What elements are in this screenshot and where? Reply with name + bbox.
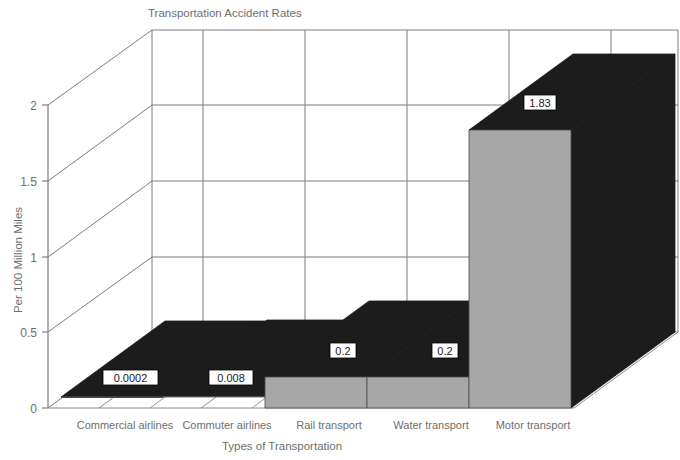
value-label-commercial-airlines: 0.0002 — [103, 370, 158, 385]
bar-motor-transport-front — [469, 130, 571, 408]
value-label-text-4: 1.83 — [529, 97, 550, 109]
y-tick-label-2: 2 — [30, 99, 37, 113]
category-label-water-transport: Water transport — [393, 419, 468, 431]
depth-line-2 — [48, 30, 152, 105]
value-label-water-transport: 0.2 — [432, 343, 458, 358]
depth-line-1 — [48, 181, 152, 257]
y-axis — [42, 105, 48, 408]
chart-title: Transportation Accident Rates — [148, 7, 302, 19]
value-label-rail-transport: 0.2 — [330, 343, 356, 358]
bar-water-transport-front — [367, 377, 469, 408]
bar-motor-transport[interactable] — [469, 54, 675, 408]
value-label-text-0: 0.0002 — [114, 372, 148, 384]
y-axis-title: Per 100 Million Miles — [12, 207, 24, 313]
value-label-text-1: 0.008 — [217, 372, 245, 384]
chart-container: 2 1.5 1 0.5 0 Per 100 Million Miles Tran… — [0, 0, 680, 460]
transportation-accident-rates-chart: 2 1.5 1 0.5 0 Per 100 Million Miles Tran… — [0, 0, 680, 460]
category-label-motor-transport: Motor transport — [496, 419, 571, 431]
bar-rail-transport-front — [265, 377, 367, 408]
value-label-text-3: 0.2 — [437, 345, 452, 357]
depth-line-0-5 — [48, 257, 152, 332]
category-label-rail-transport: Rail transport — [296, 419, 361, 431]
x-axis-title: Types of Transportation — [222, 440, 342, 452]
depth-line-1-5 — [48, 105, 152, 181]
y-tick-label-0-5: 0.5 — [20, 326, 37, 340]
value-label-motor-transport: 1.83 — [524, 95, 556, 110]
y-tick-label-1-5: 1.5 — [20, 175, 37, 189]
category-label-commuter-airlines: Commuter airlines — [182, 419, 272, 431]
category-label-commercial-airlines: Commercial airlines — [77, 419, 174, 431]
value-label-commuter-airlines: 0.008 — [209, 370, 253, 385]
y-tick-label-1: 1 — [30, 251, 37, 265]
value-label-text-2: 0.2 — [335, 345, 350, 357]
y-tick-label-0: 0 — [30, 402, 37, 416]
